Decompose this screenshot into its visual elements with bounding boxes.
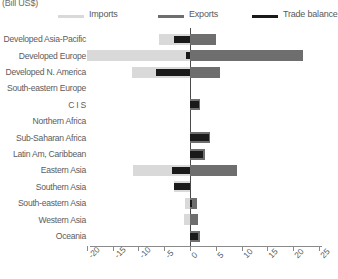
legend-swatch-exports <box>158 15 184 18</box>
bar-exports <box>190 50 303 61</box>
plot-area: Developed Asia-PacificDeveloped EuropeDe… <box>0 28 322 246</box>
bar-trade-balance <box>190 233 198 240</box>
bar-trade-balance <box>190 151 203 158</box>
bar-trade-balance <box>190 134 209 141</box>
bar-imports <box>87 50 190 61</box>
legend-label-trade-balance: Trade balance <box>283 9 338 19</box>
category-label: Developed Europe <box>19 51 86 61</box>
x-tick-label: 10 <box>241 246 255 260</box>
category-label: Developed N. America <box>5 67 86 77</box>
x-tick-label: 20 <box>292 246 306 260</box>
category-label: Eastern Asia <box>41 165 86 175</box>
legend-swatch-imports <box>58 15 84 18</box>
x-tick-label: -5 <box>163 248 175 260</box>
unit-label: (Bill US$) <box>2 0 38 8</box>
legend-swatch-trade-balance <box>252 15 278 18</box>
bar-trade-balance <box>174 183 190 190</box>
legend-label-imports: Imports <box>89 9 118 19</box>
category-label: Western Asia <box>39 215 86 225</box>
category-label: Northern Africa <box>32 116 86 126</box>
bar-trade-balance <box>190 200 192 207</box>
category-label: Developed Asia-Pacific <box>4 34 86 44</box>
category-label: Latin Am, Caribbean <box>13 149 86 159</box>
x-axis: -20-15-10-50510152025 <box>0 246 322 279</box>
category-label: Oceania <box>56 231 86 241</box>
x-axis-line <box>90 246 322 247</box>
category-label: South-eastern Europe <box>7 83 86 93</box>
category-label: Sub-Saharan Africa <box>16 133 86 143</box>
bar-exports <box>190 214 198 225</box>
legend-label-exports: Exports <box>189 9 218 19</box>
bar-exports <box>190 165 237 176</box>
bar-trade-balance <box>156 69 190 76</box>
bar-trade-balance <box>186 52 190 59</box>
x-tick-label: 25 <box>318 246 332 260</box>
bar-exports <box>190 67 220 78</box>
bar-exports <box>190 34 216 45</box>
bar-trade-balance <box>172 167 190 174</box>
x-tick-label: 15 <box>266 246 280 260</box>
chart-legend: Imports Exports Trade balance <box>58 9 320 23</box>
category-label: Southern Asia <box>36 182 86 192</box>
bar-trade-balance <box>174 36 190 43</box>
x-tick-label: 5 <box>215 250 225 260</box>
x-tick-label: 0 <box>189 250 199 260</box>
bar-trade-balance <box>190 101 199 108</box>
category-label: South-eastern Asia <box>18 198 86 208</box>
category-label: C I S <box>68 100 86 110</box>
